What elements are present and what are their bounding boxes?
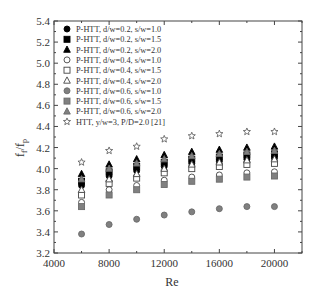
- y-tick-label: 4.0: [36, 163, 50, 175]
- legend-marker-star-icon: [63, 118, 70, 125]
- y-tick-label: 4.6: [36, 99, 50, 111]
- y-tick-label: 5.4: [36, 15, 50, 27]
- data-point: [271, 128, 278, 135]
- data-point: [271, 204, 277, 210]
- x-tick-label: 16000: [206, 257, 234, 269]
- y-tick-label: 4.2: [36, 142, 50, 154]
- x-tick-label: 12000: [150, 257, 178, 269]
- legend-item: P-HTT, d/w=0.6, s/w=2.0: [76, 107, 161, 116]
- data-point: [216, 176, 222, 182]
- legend-item: P-HTT, d/w=0.2, s/w=2.0: [76, 46, 161, 55]
- y-tick-label: 5.0: [36, 57, 50, 69]
- x-tick-label: 8000: [98, 257, 121, 269]
- legend-item: P-HTT, d/w=0.4, s/w=1.5: [76, 66, 161, 75]
- y-tick-label: 5.2: [36, 36, 50, 48]
- chart: 3.23.43.63.84.04.24.44.64.85.05.25.4 400…: [0, 0, 316, 300]
- legend-marker-circle-icon: [64, 57, 70, 63]
- y-tick-label: 3.6: [36, 205, 50, 217]
- legend-marker-square-icon: [64, 67, 70, 73]
- x-axis-title: Re: [165, 275, 178, 289]
- y-tick-label: 4.8: [36, 78, 50, 90]
- legend-item: P-HTT, d/w=0.2, s/w=1.0: [76, 25, 161, 34]
- data-point: [243, 128, 250, 135]
- data-point: [106, 222, 112, 228]
- data-point: [134, 187, 140, 193]
- data-point: [133, 143, 140, 150]
- svg-text:ff/fp: ff/fp: [13, 139, 29, 157]
- y-tick-label: 4.4: [36, 120, 50, 132]
- legend-item: P-HTT, d/w=0.2, s/w=1.5: [76, 35, 161, 44]
- y-axis-title-slash: /f: [13, 143, 27, 150]
- data-points: [78, 128, 278, 237]
- data-point: [106, 147, 113, 154]
- series-6: [79, 204, 278, 237]
- legend-marker-square-icon: [64, 98, 70, 104]
- y-tick-label: 3.4: [36, 226, 50, 238]
- legend: P-HTT, d/w=0.2, s/w=1.0P-HTT, d/w=0.2, s…: [63, 25, 165, 127]
- data-point: [189, 209, 195, 215]
- data-point: [78, 159, 85, 166]
- data-point: [271, 173, 277, 179]
- data-point: [244, 174, 250, 180]
- y-tick-label: 3.8: [36, 184, 50, 196]
- legend-item: P-HTT, d/w=0.6, s/w=1.5: [76, 97, 161, 106]
- x-tick-label: 4000: [43, 257, 66, 269]
- legend-marker-square-icon: [64, 36, 70, 42]
- legend-item: P-HTT, d/w=0.4, s/w=1.0: [76, 56, 161, 65]
- legend-marker-triangle-icon: [64, 108, 71, 114]
- legend-item: HTT, y/w=3, P/D=2.0 [21]: [76, 118, 165, 127]
- legend-marker-triangle-icon: [64, 77, 71, 83]
- legend-item: P-HTT, d/w=0.6, s/w=1.0: [76, 87, 161, 96]
- y-axis-title: ff/fp: [13, 139, 29, 157]
- data-point: [134, 216, 140, 222]
- legend-marker-circle-icon: [64, 26, 70, 32]
- data-point: [189, 178, 195, 184]
- data-point: [161, 135, 168, 142]
- data-point: [79, 192, 85, 198]
- data-point: [79, 231, 85, 237]
- legend-marker-triangle-icon: [64, 46, 71, 52]
- x-tick-label: 20000: [261, 257, 289, 269]
- data-point: [161, 181, 167, 187]
- data-point: [79, 204, 85, 210]
- legend-marker-circle-icon: [64, 88, 70, 94]
- data-point: [106, 192, 112, 198]
- data-point: [161, 212, 167, 218]
- data-point: [216, 130, 223, 137]
- legend-item: P-HTT, d/w=0.4, s/w=2.0: [76, 77, 161, 86]
- data-point: [244, 204, 250, 210]
- data-point: [216, 206, 222, 212]
- data-point: [188, 132, 195, 139]
- y-axis-title-sub2: p: [20, 139, 29, 143]
